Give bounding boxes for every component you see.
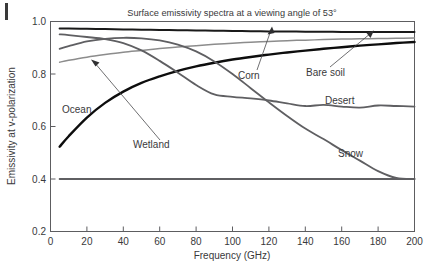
curve-corn <box>60 29 415 32</box>
x-tick-label: 160 <box>333 236 350 247</box>
x-axis-title: Frequency (GHz) <box>194 250 271 261</box>
x-tick-labels: 0 20 40 60 80 100 120 140 160 180 200 <box>48 236 424 247</box>
y-tick-label: 0.8 <box>32 69 46 80</box>
x-tick-label: 0 <box>48 236 54 247</box>
y-tick-label: 0.2 <box>32 226 46 237</box>
y-tick-label: 0.4 <box>32 174 46 185</box>
emissivity-chart: Surface emissivity spectra at a viewing … <box>0 0 433 269</box>
curve-ocean <box>60 42 415 147</box>
bare-soil-leader-line <box>330 33 371 67</box>
y-axis-title: Emissivity at v-polarization <box>6 67 17 185</box>
wetland-arrowhead <box>91 60 100 67</box>
plot-frame <box>51 22 415 232</box>
label-bare-soil: Bare soil <box>306 67 345 78</box>
x-tick-label: 180 <box>370 236 387 247</box>
figure-container: Surface emissivity spectra at a viewing … <box>0 0 433 269</box>
corn-leader-line <box>257 30 271 70</box>
x-tick-label: 140 <box>297 236 314 247</box>
label-wetland: Wetland <box>133 139 170 150</box>
label-snow: Snow <box>338 148 364 159</box>
wetland-leader-line <box>94 62 160 140</box>
y-tick-marks <box>51 22 56 232</box>
x-tick-label: 100 <box>224 236 241 247</box>
label-corn: Corn <box>238 70 260 81</box>
y-tick-label: 1.0 <box>32 16 46 27</box>
x-tick-label: 40 <box>118 236 130 247</box>
x-tick-label: 60 <box>154 236 166 247</box>
x-tick-label: 200 <box>406 236 423 247</box>
y-tick-label: 0.6 <box>32 121 46 132</box>
label-desert: Desert <box>325 95 355 106</box>
x-tick-label: 20 <box>81 236 93 247</box>
x-tick-label: 120 <box>261 236 278 247</box>
annotation-labels: Ocean Wetland Corn Bare soil Desert Snow <box>62 67 364 159</box>
chart-title: Surface emissivity spectra at a viewing … <box>127 8 337 18</box>
x-tick-marks <box>51 227 415 232</box>
x-tick-label: 80 <box>191 236 203 247</box>
label-ocean: Ocean <box>62 104 91 115</box>
y-tick-labels: 0.2 0.4 0.6 0.8 1.0 <box>32 16 46 237</box>
